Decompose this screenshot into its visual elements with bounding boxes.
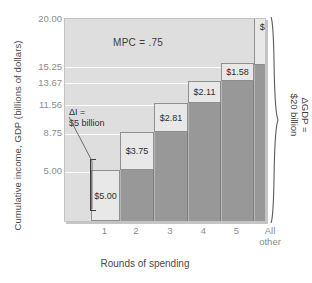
x-tick-label-4: 4 — [187, 225, 220, 236]
multiplier-bar-chart: Cumulative income, GDP (billions of doll… — [0, 0, 312, 283]
cumulative-solid-5 — [221, 81, 254, 221]
bar-round-4: $2.11 — [188, 81, 221, 221]
increment-box-4: $2.11 — [188, 81, 221, 103]
increment-box-3: $2.81 — [154, 103, 188, 132]
plot-area: MPC = .75 $5.00 $3.75 $2.81 — [64, 18, 266, 222]
cumulative-solid-4 — [188, 103, 221, 221]
x-tick-label-5: 5 — [220, 225, 253, 236]
y-axis-tick-labels: 20.00 15.25 13.67 11.56 8.75 5.00 — [16, 0, 62, 283]
bar-round-2: $3.75 — [120, 132, 154, 221]
delta-gdp-brace — [270, 16, 280, 224]
cumulative-solid-3 — [154, 132, 188, 221]
y-tick-label: 8.75 — [20, 128, 62, 138]
increment-label-6: $4.75 — [260, 22, 265, 32]
y-tick-label: 15.25 — [20, 62, 62, 72]
delta-gdp-line-2: $20 billion — [289, 65, 300, 165]
x-tick-label-2: 2 — [119, 225, 153, 236]
x-tick-label-1: 1 — [90, 225, 119, 236]
y-tick-label: 5.00 — [20, 166, 62, 176]
bar-round-5: $1.58 — [221, 65, 254, 221]
increment-label-2: $3.75 — [126, 146, 149, 156]
x-tick-all-other-line-2: other — [253, 236, 287, 247]
mpc-annotation: MPC = .75 — [113, 37, 163, 48]
cumulative-solid-6 — [254, 65, 265, 221]
y-tick-label: 11.56 — [20, 100, 62, 110]
x-tick-label-3: 3 — [153, 225, 187, 236]
cumulative-solid-2 — [120, 170, 154, 221]
increment-label-5: $1.58 — [226, 67, 249, 77]
x-tick-label-all-other: All other — [253, 225, 287, 247]
delta-i-leader-line — [65, 115, 105, 211]
increment-label-3: $2.81 — [160, 113, 183, 123]
delta-gdp-annotation: ΔGDP = $20 billion — [289, 65, 311, 165]
x-axis-tick-labels: 1 2 3 4 5 All other — [64, 225, 266, 255]
bar-all-other: $4.75 — [254, 19, 265, 221]
x-axis-title: Rounds of spending — [50, 258, 240, 269]
increment-box-2: $3.75 — [120, 132, 154, 170]
delta-gdp-line-1: ΔGDP = — [300, 65, 311, 165]
increment-box-6: $4.75 — [254, 19, 265, 65]
increment-label-4: $2.11 — [194, 87, 216, 97]
x-tick-all-other-line-1: All — [253, 225, 287, 236]
plot-inner: MPC = .75 $5.00 $3.75 $2.81 — [65, 19, 265, 221]
y-tick-label: 20.00 — [20, 14, 62, 24]
increment-box-5: $1.58 — [221, 63, 254, 81]
y-tick-label: 13.67 — [20, 78, 62, 88]
bar-round-3: $2.81 — [154, 103, 188, 221]
